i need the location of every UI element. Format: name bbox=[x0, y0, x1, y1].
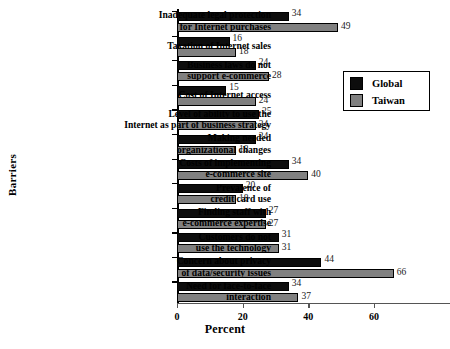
legend-label: Global bbox=[372, 78, 402, 89]
x-axis-title: Percent bbox=[0, 322, 450, 337]
x-axis-tick-label: 20 bbox=[238, 311, 248, 322]
x-axis-tick bbox=[177, 303, 178, 308]
category-label: Customers do notuse the technology bbox=[196, 231, 271, 254]
bar-chart: Barriers 3449161824281524252424183440201… bbox=[0, 0, 450, 349]
x-axis-tick-label: 40 bbox=[303, 311, 313, 322]
y-axis-title: Barriers bbox=[4, 120, 20, 230]
x-axis-tick-label: 60 bbox=[369, 311, 379, 322]
x-axis-tick bbox=[243, 303, 244, 308]
x-axis-tick-label: 0 bbox=[175, 311, 180, 322]
chart-legend: GlobalTaiwan bbox=[343, 71, 430, 111]
legend-label: Taiwan bbox=[372, 95, 405, 106]
x-axis-line bbox=[177, 303, 450, 304]
x-axis-tick bbox=[374, 303, 375, 308]
category-label: Level of ability to use theInternet as p… bbox=[124, 108, 271, 131]
category-label: Costs of implementinge-commerce site bbox=[179, 157, 271, 180]
bar-value-label: 34 bbox=[292, 157, 302, 166]
legend-swatch bbox=[350, 77, 363, 90]
category-label: Making neededorganizational changes bbox=[177, 132, 271, 155]
category-label: Taxation of Internet sales bbox=[167, 40, 271, 51]
bar-value-label: 49 bbox=[341, 22, 351, 31]
legend-item: Taiwan bbox=[350, 93, 405, 108]
bar-value-label: 31 bbox=[282, 230, 292, 239]
bar-value-label: 31 bbox=[282, 243, 292, 252]
legend-item: Global bbox=[350, 76, 402, 91]
category-label: Prevalence ofcredit card use bbox=[210, 182, 271, 205]
category-label: Business laws do notsupport e-commerce bbox=[187, 59, 271, 82]
category-label: Cost of Internet access bbox=[179, 89, 271, 100]
bar-value-label: 66 bbox=[397, 268, 407, 277]
bar-value-label: 28 bbox=[272, 71, 282, 80]
bar-value-label: 44 bbox=[324, 255, 334, 264]
category-label: Need for face-to-faceinteraction bbox=[186, 280, 271, 303]
category-label: Concern about privacyof data/security is… bbox=[177, 255, 271, 278]
bar-value-label: 40 bbox=[311, 170, 321, 179]
bar-value-label: 34 bbox=[292, 9, 302, 18]
bar-value-label: 34 bbox=[292, 279, 302, 288]
legend-swatch bbox=[350, 94, 363, 107]
category-label: Inadequate legal protectionfor Internet … bbox=[159, 9, 271, 32]
x-axis-tick bbox=[308, 303, 309, 308]
bar-value-label: 37 bbox=[301, 292, 311, 301]
category-label: Finding staff withe-commerce expertise bbox=[182, 206, 271, 229]
